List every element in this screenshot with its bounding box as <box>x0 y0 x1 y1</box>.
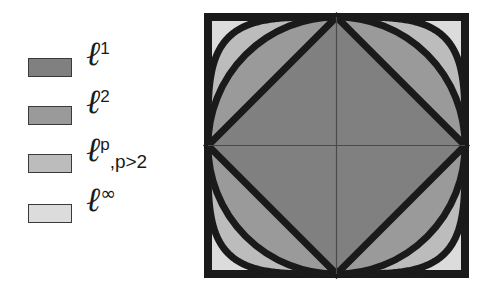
legend-swatch-l2 <box>28 106 72 125</box>
legend-label-linf: ℓ∞ <box>86 182 116 216</box>
legend-label-l1: ℓ1 <box>86 36 110 70</box>
legend-item-linf: ℓ∞ <box>0 196 190 242</box>
ell-glyph-l1: ℓ <box>86 33 100 73</box>
lp-unit-ball-figure: ℓ1 ℓ2 ℓp,p>2 ℓ∞ <box>0 0 495 290</box>
ell-condition-lp: ,p>2 <box>110 151 148 172</box>
unit-ball-plot <box>193 12 480 279</box>
ell-exponent-l1: 1 <box>100 39 109 58</box>
legend-swatch-l1 <box>28 58 72 77</box>
legend-label-lp: ℓp,p>2 <box>86 132 147 171</box>
legend-swatch-linf <box>28 204 72 223</box>
ell-glyph-l2: ℓ <box>86 81 100 121</box>
ell-exponent-l2: 2 <box>100 87 109 106</box>
ell-exponent-lp: p <box>100 135 109 154</box>
legend: ℓ1 ℓ2 ℓp,p>2 ℓ∞ <box>0 0 190 290</box>
legend-label-l2: ℓ2 <box>86 84 110 118</box>
unit-ball-svg <box>193 12 480 279</box>
ell-glyph-lp: ℓ <box>86 129 100 169</box>
ell-exponent-linf: ∞ <box>100 182 116 204</box>
ell-glyph-linf: ℓ <box>86 179 100 219</box>
legend-swatch-lp <box>28 154 72 173</box>
